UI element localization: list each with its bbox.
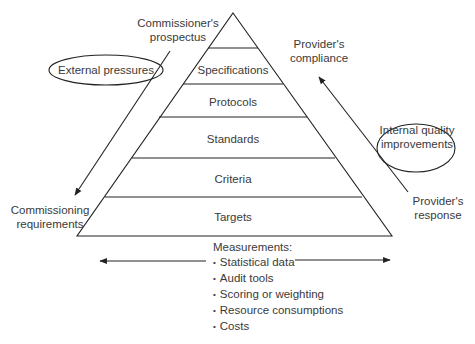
label-line: compliance — [276, 51, 362, 65]
label-line: Commissioner's — [128, 16, 228, 30]
measurement-item: Statistical data — [213, 255, 343, 271]
label-line: Internal quality — [374, 123, 460, 137]
label-line: response — [404, 208, 472, 222]
label-line: Commissioning — [6, 203, 94, 217]
label-line: requirements — [6, 217, 94, 231]
tier-criteria: Criteria — [153, 172, 313, 186]
tier-standards: Standards — [153, 132, 313, 146]
providers-compliance-label: Provider's compliance — [276, 37, 362, 65]
measurement-item: Resource consumptions — [213, 303, 343, 319]
label-line: improvements — [374, 137, 460, 151]
measurements-block: Measurements: Statistical data Audit too… — [213, 240, 343, 335]
external-pressures-label: External pressures — [49, 63, 163, 77]
label-line: Provider's — [404, 194, 472, 208]
tier-specifications: Specifications — [153, 63, 313, 77]
tier-targets: Targets — [153, 210, 313, 224]
measurement-item: Scoring or weighting — [213, 287, 343, 303]
providers-response-label: Provider's response — [404, 194, 472, 222]
commissioners-prospectus-label: Commissioner's prospectus — [128, 16, 228, 44]
commissioning-requirements-label: Commissioning requirements — [6, 203, 94, 231]
label-line: prospectus — [128, 30, 228, 44]
label-line: Provider's — [276, 37, 362, 51]
measurement-item: Audit tools — [213, 271, 343, 287]
measurements-title: Measurements: — [213, 240, 343, 255]
measurement-item: Costs — [213, 319, 343, 335]
measurements-list: Statistical data Audit tools Scoring or … — [213, 255, 343, 335]
tier-protocols: Protocols — [153, 95, 313, 109]
internal-quality-improvements-label: Internal quality improvements — [374, 123, 460, 151]
